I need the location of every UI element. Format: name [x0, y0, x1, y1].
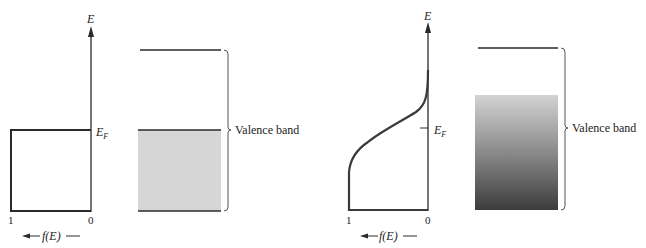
tick-label-zero: 0 [88, 214, 94, 226]
tick-label-one: 1 [8, 214, 14, 226]
left-panel: E EF 1 0 f(E) Valence band [8, 12, 299, 243]
fermi-level-label: EF [95, 125, 108, 141]
left-arrow-icon [22, 234, 30, 239]
left-arrow-icon [360, 234, 368, 239]
band-bracket [224, 50, 231, 211]
right-panel: E EF 1 0 f(E) Valence band [346, 9, 636, 243]
energy-axis-label: E [86, 12, 95, 26]
tick-label-one: 1 [346, 214, 352, 226]
filled-states [138, 130, 221, 211]
axis-arrow-icon [88, 26, 94, 37]
band-bracket [561, 48, 568, 210]
f-axis-label: f(E) [379, 229, 398, 243]
valence-band-label: Valence band [235, 123, 299, 137]
energy-axis-label: E [423, 9, 432, 23]
graded-occupancy [475, 95, 558, 210]
fermi-level-label: EF [433, 123, 446, 139]
axis-arrow-icon [425, 22, 431, 33]
band-diagram: E EF 1 0 f(E) Valence band E EF 1 0 [0, 0, 646, 248]
tick-label-zero: 0 [425, 214, 431, 226]
fermi-dirac-curve [349, 70, 428, 210]
f-axis-label: f(E) [42, 229, 61, 243]
fermi-step-function [11, 130, 91, 211]
valence-band-label: Valence band [572, 121, 636, 135]
